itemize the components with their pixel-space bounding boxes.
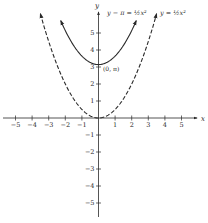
upper-parabola-equation: y − π = ½x² <box>106 9 147 17</box>
x-tick-label: −2 <box>61 121 71 129</box>
y-tick-label: 4 <box>90 46 94 54</box>
y-tick-label: 3 <box>90 63 94 71</box>
x-tick-label: 5 <box>179 121 183 129</box>
y-tick-label: −5 <box>85 199 95 207</box>
x-tick-label: 3 <box>146 121 150 129</box>
y-tick-label: −2 <box>85 148 95 156</box>
x-tick-label: −4 <box>27 121 37 129</box>
x-tick-label: 2 <box>130 121 134 129</box>
y-tick-label: 2 <box>90 80 94 88</box>
x-tick-label: −3 <box>44 121 54 129</box>
y-axis: 54321−1−2−3−4−5 y <box>85 2 101 217</box>
y-tick-label: −3 <box>85 165 95 173</box>
x-axis-label: x <box>201 115 205 123</box>
y-tick-label: 1 <box>90 97 94 105</box>
vertex-point-label: (0, π) <box>103 65 119 72</box>
y-tick-label: −4 <box>85 182 95 190</box>
y-tick-label: −1 <box>85 131 95 139</box>
lower-parabola-equation: y = ½x² <box>159 9 186 17</box>
x-tick-label: 4 <box>163 121 167 129</box>
y-tick-label: 5 <box>90 29 94 37</box>
x-tick-label: 1 <box>113 121 117 129</box>
x-tick-label: −1 <box>77 121 87 129</box>
x-tick-label: −5 <box>11 121 21 129</box>
y-axis-label: y <box>94 2 100 10</box>
parabola-chart: −5−4−3−2−112345 x 54321−1−2−3−4−5 y y − … <box>0 0 208 223</box>
